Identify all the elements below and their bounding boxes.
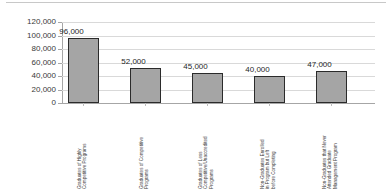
bar-chart-figure: 120,000 100,000 80,000 60,000 40,000 20,… — [0, 0, 392, 194]
category-label-line: Programs — [144, 107, 149, 189]
y-tick-label: 60,000 — [4, 59, 56, 67]
category-label-graduates-competitive: Graduates of Competitive Programs — [139, 107, 150, 189]
gridline — [62, 22, 375, 23]
bar-value-label: 40,000 — [234, 66, 281, 74]
gridline — [62, 36, 375, 37]
x-tick-mark — [331, 103, 332, 106]
category-label-line: Programs — [209, 107, 214, 189]
y-tick-label: 0 — [4, 99, 56, 107]
x-tick-mark — [269, 103, 270, 106]
category-label-graduates-less-competitive: Graduates of Less Competitive/Unaccredit… — [198, 107, 214, 189]
category-label-line: Competitive Programs — [82, 107, 87, 189]
bar-value-label: 45,000 — [172, 63, 219, 71]
y-tick-label: 120,000 — [4, 18, 56, 26]
bar-value-label: 47,000 — [296, 61, 343, 69]
category-label-line: Management Program — [333, 107, 338, 189]
bar-non-graduates-never-attended[interactable] — [316, 71, 347, 103]
category-label-non-graduates-never-attended: Non-Graduates that Never Attended Gradua… — [322, 107, 338, 189]
x-tick-mark — [83, 103, 84, 106]
bar-graduates-competitive[interactable] — [130, 68, 161, 103]
bar-value-label: 52,000 — [110, 58, 157, 66]
bar-graduates-less-competitive[interactable] — [192, 73, 223, 103]
x-tick-mark — [207, 103, 208, 106]
category-label-line: before Completing — [271, 107, 276, 189]
category-label-non-graduates-left-early: Non-Graduates Enrolled in Program but Le… — [260, 107, 276, 189]
y-tick-label: 80,000 — [4, 45, 56, 53]
x-axis-line — [62, 103, 375, 104]
gridline — [62, 49, 375, 50]
y-tick-label: 40,000 — [4, 72, 56, 80]
bar-value-label: 96,000 — [48, 28, 95, 36]
category-label-graduates-highly-competitive: Graduates of Highly Competitive Programs — [77, 107, 88, 189]
y-tick-label: 20,000 — [4, 86, 56, 94]
x-tick-mark — [145, 103, 146, 106]
bar-non-graduates-left-early[interactable] — [254, 76, 285, 103]
bar-graduates-highly-competitive[interactable] — [68, 38, 99, 103]
page-top-rule — [6, 2, 386, 3]
